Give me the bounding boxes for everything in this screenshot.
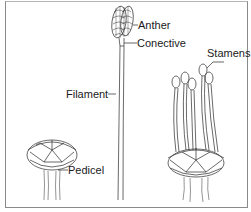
filament-illustration <box>118 46 124 200</box>
stamen-diagram: Anther Conective Filament Stamens Pedice… <box>0 0 251 212</box>
label-pedicel: Pedicel <box>68 165 104 176</box>
conective-illustration <box>119 38 124 46</box>
label-anther: Anther <box>138 20 170 31</box>
label-filament: Filament <box>66 89 108 100</box>
label-stamens: Stamens <box>207 48 250 59</box>
label-conective: Conective <box>137 38 186 49</box>
receptacle-right-illustration <box>168 62 224 202</box>
anther-illustration <box>110 5 135 39</box>
diagram-drawing <box>0 0 251 212</box>
